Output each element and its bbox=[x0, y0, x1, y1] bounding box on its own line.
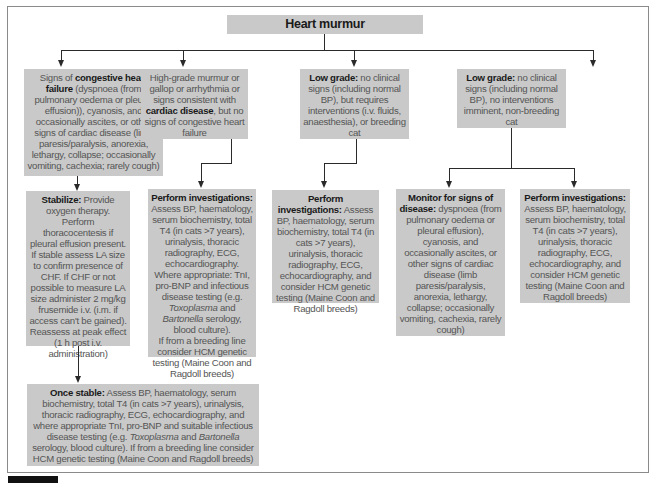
arrow-icon bbox=[74, 184, 80, 191]
node-investigations-cardiac: Perform investigations: Assess BP, haema… bbox=[148, 189, 256, 357]
node-cardiac-disease: High-grade murmur or gallop or arrhythmi… bbox=[141, 69, 248, 139]
arrow-icon bbox=[58, 60, 64, 67]
connector bbox=[324, 34, 325, 50]
arrow-icon bbox=[180, 60, 186, 67]
node-once-stable: Once stable: Assess BP, haematology, ser… bbox=[27, 384, 259, 466]
arrow-icon bbox=[590, 60, 596, 67]
node-investigations-low-grade: Perform investigations: Assess BP, haema… bbox=[272, 190, 379, 303]
root-node-heart-murmur: Heart murmur bbox=[227, 15, 423, 34]
connector bbox=[201, 163, 232, 164]
node-low-grade-non-breeding: Low grade: no clinical signs (including … bbox=[457, 69, 566, 128]
arrow-icon bbox=[351, 60, 357, 67]
connector bbox=[449, 168, 574, 169]
connector bbox=[324, 163, 325, 183]
connector bbox=[324, 163, 357, 164]
node-investigations-non-breeding: Perform investigations: Assess BP, haema… bbox=[520, 189, 630, 303]
connector bbox=[201, 163, 202, 183]
connector bbox=[78, 346, 79, 377]
node-stabilize: Stabilize: Provide oxygen therapy. Perfo… bbox=[26, 191, 130, 346]
arrow-icon bbox=[571, 181, 577, 188]
connector bbox=[231, 139, 232, 163]
node-monitor: Monitor for signs of disease: dyspnoea (… bbox=[396, 189, 505, 336]
arrow-icon bbox=[446, 181, 452, 188]
connector bbox=[511, 128, 512, 168]
connector bbox=[356, 139, 357, 163]
connector bbox=[61, 50, 594, 51]
arrow-icon bbox=[198, 181, 204, 188]
arrow-icon bbox=[75, 376, 81, 383]
figure-label-bar bbox=[8, 476, 58, 483]
node-low-grade-breeding: Low grade: no clinical signs (including … bbox=[300, 69, 409, 139]
arrow-icon bbox=[321, 181, 327, 188]
